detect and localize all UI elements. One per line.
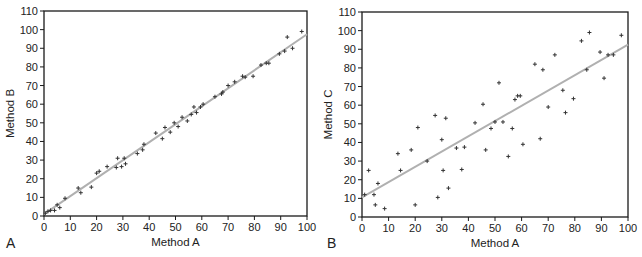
data-point [484, 148, 488, 152]
data-point [619, 33, 623, 37]
y-tick-label: 100 [20, 24, 38, 36]
data-point [416, 126, 420, 130]
data-point [563, 111, 567, 115]
x-tick-label: 50 [489, 222, 501, 234]
x-tick-label: 70 [222, 221, 234, 233]
x-tick-label: 60 [196, 221, 208, 233]
y-tick-label: 70 [344, 81, 356, 93]
x-axis-title: Method A [471, 237, 520, 249]
x-tick-label: 80 [569, 222, 581, 234]
y-tick-label: 40 [344, 136, 356, 148]
plot-area-frame [44, 11, 307, 216]
data-point [506, 154, 510, 158]
data-point [396, 152, 400, 156]
data-point [541, 68, 545, 72]
data-point [58, 206, 62, 210]
data-point [399, 168, 403, 172]
chart-panel-a: 0102030405060708090100110010203040506070… [0, 0, 321, 257]
y-tick-label: 100 [338, 25, 356, 37]
data-point [489, 126, 493, 130]
data-point [538, 137, 542, 141]
regression-line [44, 34, 307, 214]
data-point [168, 130, 172, 134]
data-point [602, 76, 606, 80]
x-tick-label: 40 [462, 222, 474, 234]
data-point [460, 167, 464, 171]
chart-panel-b: 0102030405060708090100110010203040506070… [321, 0, 642, 257]
data-point [367, 168, 371, 172]
y-tick-label: 0 [32, 210, 38, 222]
y-tick-label: 30 [344, 155, 356, 167]
data-point [154, 131, 158, 135]
data-point [579, 39, 583, 43]
x-tick-label: 50 [169, 221, 181, 233]
x-tick-label: 90 [275, 221, 287, 233]
y-tick-label: 10 [344, 192, 356, 204]
data-point [598, 50, 602, 54]
y-tick-label: 70 [26, 80, 38, 92]
data-point [446, 186, 450, 190]
data-point [160, 137, 164, 141]
data-point [285, 35, 289, 39]
y-tick-label: 80 [26, 61, 38, 73]
x-tick-label: 0 [359, 222, 365, 234]
x-tick-label: 100 [619, 222, 637, 234]
data-point [533, 62, 537, 66]
y-tick-label: 110 [20, 5, 38, 17]
x-tick-label: 20 [409, 222, 421, 234]
y-tick-label: 30 [26, 154, 38, 166]
data-point [89, 185, 93, 189]
y-tick-label: 10 [26, 191, 38, 203]
data-point [454, 146, 458, 150]
data-point [185, 119, 189, 123]
data-point [518, 94, 522, 98]
data-point [436, 195, 440, 199]
data-point [444, 116, 448, 120]
data-point [376, 181, 380, 185]
y-tick-label: 40 [26, 135, 38, 147]
data-point [300, 30, 304, 34]
x-tick-label: 20 [90, 221, 102, 233]
y-tick-label: 110 [338, 6, 356, 18]
panel-letter: A [6, 235, 16, 251]
data-point [383, 207, 387, 211]
y-tick-label: 60 [26, 98, 38, 110]
data-point [163, 125, 167, 129]
data-point [473, 121, 477, 125]
data-point [124, 162, 128, 166]
data-point [413, 203, 417, 207]
data-point [462, 145, 466, 149]
data-point [251, 74, 255, 78]
data-point [120, 165, 124, 169]
data-point [481, 102, 485, 106]
data-point [409, 148, 413, 152]
x-tick-label: 80 [248, 221, 260, 233]
y-tick-label: 90 [344, 43, 356, 55]
data-point [291, 46, 295, 50]
data-point [373, 203, 377, 207]
data-point [521, 142, 525, 146]
y-tick-label: 20 [344, 174, 356, 186]
x-axis-title: Method A [151, 236, 200, 248]
x-tick-label: 60 [515, 222, 527, 234]
data-point [571, 97, 575, 101]
y-tick-label: 20 [26, 173, 38, 185]
x-tick-label: 10 [382, 222, 394, 234]
y-tick-label: 80 [344, 62, 356, 74]
data-point [510, 126, 514, 130]
data-point [105, 165, 109, 169]
data-point [433, 113, 437, 117]
y-tick-label: 50 [344, 118, 356, 130]
data-point [546, 105, 550, 109]
x-tick-label: 90 [595, 222, 607, 234]
x-tick-label: 30 [117, 221, 129, 233]
data-point [440, 138, 444, 142]
x-tick-label: 10 [64, 221, 76, 233]
data-point [513, 98, 517, 102]
x-tick-label: 100 [298, 221, 316, 233]
panel-letter: B [327, 235, 336, 251]
data-point [497, 81, 501, 85]
x-tick-label: 0 [41, 221, 47, 233]
y-tick-label: 0 [350, 211, 356, 223]
y-axis-title: Method C [322, 90, 334, 140]
